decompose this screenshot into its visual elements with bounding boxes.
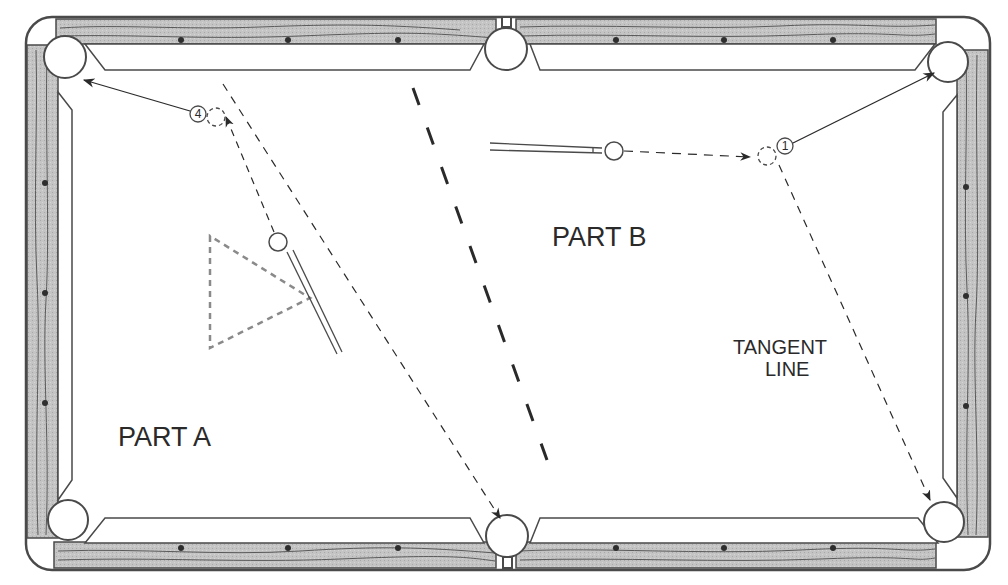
- part-a-label: PART A: [118, 422, 211, 452]
- pocket-top-right: [928, 42, 968, 82]
- cue-ball-b: [605, 142, 623, 160]
- bottom-rail-left: [54, 542, 496, 568]
- right-rail: [957, 50, 988, 537]
- pocket-bottom-right: [924, 502, 964, 542]
- part-b-label: PART B: [552, 222, 647, 252]
- pool-table-diagram: 4 PART A 1 PART B TANGENT LINE: [0, 0, 1008, 585]
- top-rail-left: [56, 19, 496, 44]
- tangent-label-line1: TANGENT: [733, 336, 827, 358]
- pocket-bottom-middle: [486, 515, 528, 557]
- ball-number-4: 4: [195, 107, 202, 121]
- pocket-top-middle: [485, 28, 527, 70]
- table-frame: [26, 17, 990, 570]
- pocket-bottom-middle-notch: [503, 557, 512, 568]
- pocket-bottom-left: [48, 500, 88, 540]
- cue-ball-a: [269, 233, 287, 251]
- pocket-top-middle-notch: [502, 17, 511, 27]
- ball-number-1: 1: [782, 139, 789, 153]
- tangent-label-line2: LINE: [765, 358, 809, 380]
- pocket-top-left: [44, 36, 86, 78]
